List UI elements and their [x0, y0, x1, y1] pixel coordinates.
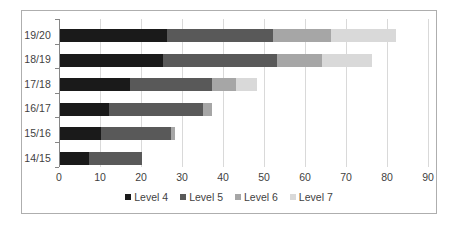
category-label: 18/19 — [11, 53, 51, 65]
value-tick-label: 60 — [290, 171, 320, 183]
bar-segment-level-7 — [236, 78, 257, 91]
legend-swatch-icon — [290, 194, 296, 200]
category-label: 17/18 — [11, 78, 51, 90]
value-tick-label: 30 — [167, 171, 197, 183]
gridline — [428, 19, 429, 167]
category-label: 14/15 — [11, 152, 51, 164]
axis-tick-mark — [55, 44, 59, 45]
value-axis-labels: 0102030405060708090 — [59, 171, 428, 187]
bar-row — [60, 29, 396, 42]
legend-item-level-7[interactable]: Level 7 — [290, 191, 333, 203]
value-tick-label: 40 — [208, 171, 238, 183]
bar-segment-level-4 — [60, 78, 130, 91]
legend-swatch-icon — [235, 194, 241, 200]
bar-segment-level-6 — [212, 78, 237, 91]
bar-segment-level-5 — [109, 103, 203, 116]
bar-row — [60, 127, 175, 140]
value-tick-label: 20 — [126, 171, 156, 183]
bar-segment-level-4 — [60, 152, 89, 165]
legend-swatch-icon — [180, 194, 186, 200]
value-tick-label: 70 — [331, 171, 361, 183]
bar-row — [60, 78, 257, 91]
value-tick-label: 50 — [249, 171, 279, 183]
axis-tick-mark — [55, 167, 59, 168]
value-tick-label: 80 — [372, 171, 402, 183]
bar-segment-level-5 — [89, 152, 142, 165]
value-tick-label: 0 — [44, 171, 74, 183]
axis-tick-mark — [55, 142, 59, 143]
bar-segment-level-4 — [60, 103, 109, 116]
bar-segment-level-5 — [163, 54, 278, 67]
bar-segment-level-5 — [101, 127, 171, 140]
legend-label: Level 5 — [189, 191, 223, 203]
bar-segment-level-4 — [60, 127, 101, 140]
bar-segment-level-6 — [277, 54, 322, 67]
axis-tick-mark — [55, 93, 59, 94]
bar-segment-level-5 — [130, 78, 212, 91]
bar-segment-level-6 — [171, 127, 175, 140]
axis-tick-mark — [55, 117, 59, 118]
category-label: 16/17 — [11, 102, 51, 114]
value-tick-label: 90 — [413, 171, 443, 183]
bar-segment-level-4 — [60, 29, 167, 42]
bar-segment-level-7 — [331, 29, 397, 42]
axis-tick-mark — [55, 19, 59, 20]
legend-item-level-6[interactable]: Level 6 — [235, 191, 278, 203]
chart-legend: Level 4Level 5Level 6Level 7 — [22, 191, 436, 203]
category-label: 15/16 — [11, 127, 51, 139]
plot-area — [59, 19, 428, 167]
axis-tick-mark — [55, 68, 59, 69]
legend-label: Level 6 — [244, 191, 278, 203]
bar-segment-level-4 — [60, 54, 163, 67]
legend-label: Level 4 — [134, 191, 168, 203]
bar-row — [60, 54, 372, 67]
chart-frame: 19/2018/1917/1816/1715/1614/15 010203040… — [21, 10, 437, 214]
category-label: 19/20 — [11, 29, 51, 41]
legend-swatch-icon — [125, 194, 131, 200]
bar-row — [60, 152, 142, 165]
legend-item-level-4[interactable]: Level 4 — [125, 191, 168, 203]
bar-segment-level-6 — [203, 103, 211, 116]
bar-segment-level-7 — [322, 54, 371, 67]
value-tick-label: 10 — [85, 171, 115, 183]
bar-segment-level-6 — [273, 29, 330, 42]
legend-item-level-5[interactable]: Level 5 — [180, 191, 223, 203]
bar-segment-level-5 — [167, 29, 274, 42]
legend-label: Level 7 — [299, 191, 333, 203]
bar-row — [60, 103, 212, 116]
